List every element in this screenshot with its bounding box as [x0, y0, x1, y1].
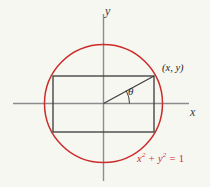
equation-rhs: 1: [179, 153, 185, 164]
point-coordinate-label: (x, y): [162, 63, 184, 74]
equation-equals: =: [170, 153, 176, 164]
figure-container: y x (x, y) θ x2 + y2 = 1: [0, 0, 210, 187]
theta-angle-label: θ: [128, 86, 133, 97]
y-axis-label: y: [105, 5, 110, 17]
equation-plus: +: [149, 153, 155, 164]
x-axis-label: x: [190, 106, 195, 118]
equation-x-exponent: 2: [142, 151, 146, 159]
equation-y-exponent: 2: [163, 151, 167, 159]
circle-equation-label: x2 + y2 = 1: [137, 152, 184, 164]
